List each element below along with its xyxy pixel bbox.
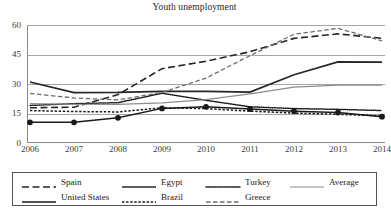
series-marker-united-states-2007 (71, 119, 77, 125)
legend-item-greece[interactable]: Greece (205, 190, 270, 205)
legend-key-line (21, 197, 57, 207)
legend-row-1: SpainEgyptTurkeyAverage (13, 175, 376, 190)
legend-label: Spain (61, 178, 82, 187)
legend-swatch-egypt-icon (121, 178, 157, 188)
chart-legend: SpainEgyptTurkeyAverage United StatesBra… (12, 172, 377, 206)
x-tick-2012: 2012 (285, 145, 303, 154)
x-tick-2013: 2013 (329, 145, 347, 154)
series-marker-united-states-2014 (379, 114, 385, 120)
series-line-egypt (30, 62, 382, 93)
x-tick-2010: 2010 (197, 145, 215, 154)
legend-label: Average (329, 178, 359, 187)
series-line-spain (30, 34, 382, 108)
legend-item-spain[interactable]: Spain (21, 175, 82, 190)
legend-swatch-turkey-icon (205, 178, 241, 188)
legend-item-average[interactable]: Average (289, 175, 359, 190)
y-axis-tick-labels: 604530150 (0, 25, 24, 143)
legend-swatch-average-icon (289, 178, 325, 188)
series-layer (27, 25, 385, 143)
y-tick-15: 15 (12, 109, 21, 118)
x-tick-2006: 2006 (21, 145, 39, 154)
series-marker-united-states-2008 (115, 115, 121, 121)
legend-swatch-greece-icon (205, 193, 241, 203)
legend-label: Egypt (161, 178, 183, 187)
legend-label: Greece (245, 193, 270, 202)
legend-swatch-united-states-icon (21, 193, 57, 203)
x-tick-2007: 2007 (65, 145, 83, 154)
series-line-average (30, 85, 382, 104)
legend-swatch-brazil-icon (121, 193, 157, 203)
legend-item-united-states[interactable]: United States (21, 190, 109, 205)
y-tick-45: 45 (12, 50, 21, 59)
legend-label: Brazil (161, 193, 183, 202)
x-tick-2009: 2009 (153, 145, 171, 154)
legend-row-2: United StatesBrazilGreece (13, 190, 376, 205)
legend-swatch-spain-icon (21, 178, 57, 188)
x-tick-2014: 2014 (373, 145, 391, 154)
legend-item-egypt[interactable]: Egypt (121, 175, 183, 190)
series-marker-united-states-2006 (27, 119, 33, 125)
legend-key-line (121, 197, 157, 207)
x-axis-tick-labels: 200620072008200920102011201220132014 (27, 145, 385, 159)
legend-item-brazil[interactable]: Brazil (121, 190, 183, 205)
chart-title: Youth unemployment (0, 2, 389, 12)
legend-label: United States (61, 193, 109, 202)
y-tick-60: 60 (12, 21, 21, 30)
x-tick-2008: 2008 (109, 145, 127, 154)
legend-key-line (205, 197, 241, 207)
x-tick-2011: 2011 (241, 145, 259, 154)
y-tick-30: 30 (12, 80, 21, 89)
legend-item-turkey[interactable]: Turkey (205, 175, 271, 190)
legend-label: Turkey (245, 178, 271, 187)
